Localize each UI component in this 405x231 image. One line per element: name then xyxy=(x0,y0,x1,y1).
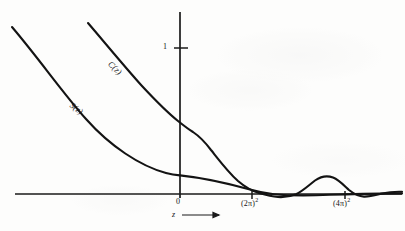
x-axis-tick-label-4pi-squared: (4π)2 xyxy=(333,197,350,208)
x-axis-tick-label-2pi-squared: (2π)2 xyxy=(241,197,258,208)
x-axis-label-z: z xyxy=(172,210,175,219)
tick-2pi-exponent: 2 xyxy=(255,197,258,203)
tick-2pi-base: (2π) xyxy=(241,199,255,208)
tick-4pi-exponent: 2 xyxy=(347,197,350,203)
curve-s-of-z xyxy=(12,27,402,195)
figure-page: S(z) C(z) 1 0 (2π)2 (4π)2 z xyxy=(0,0,405,231)
curve-c-of-z xyxy=(88,23,402,197)
x-axis-tick-label-zero: 0 xyxy=(176,197,180,206)
z-axis-arrow-head xyxy=(213,212,219,217)
y-axis-tick-label-one: 1 xyxy=(163,42,167,51)
tick-4pi-base: (4π) xyxy=(333,199,347,208)
